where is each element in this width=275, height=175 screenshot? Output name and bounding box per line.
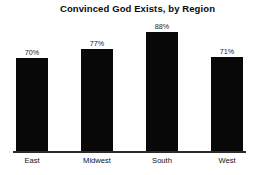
bar-midwest[interactable] [81,49,113,152]
bar-group-east: 70% [16,18,48,152]
plot-area: 70% 77% 88% 71% [0,18,275,152]
x-tick-label-west: West [218,156,235,165]
x-axis-labels: East Midwest South West [0,156,275,172]
x-axis-line [13,151,246,153]
x-tick-label-east: East [24,156,39,165]
bar-value-label: 70% [25,48,39,57]
bar-group-west: 71% [211,18,243,152]
bar-value-label: 77% [90,39,104,48]
bar-south[interactable] [146,32,178,152]
x-tick-label-south: South [152,156,172,165]
bar-east[interactable] [16,58,48,152]
bar-group-midwest: 77% [81,18,113,152]
bar-west[interactable] [211,57,243,152]
bar-value-label: 88% [155,22,169,31]
x-tick-label-midwest: Midwest [83,156,111,165]
bar-value-label: 71% [220,47,234,56]
chart-title: Convinced God Exists, by Region [0,3,275,14]
bar-chart: Convinced God Exists, by Region 70% 77% … [0,0,275,175]
bar-group-south: 88% [146,18,178,152]
